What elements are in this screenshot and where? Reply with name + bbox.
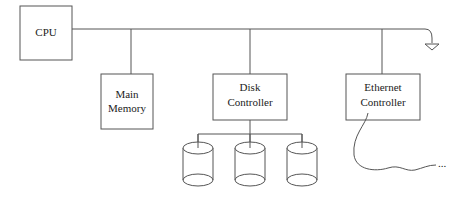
disk-controller-node: Disk Controller [213,74,287,120]
system-bus-line [72,29,432,43]
network-continuation-ellipsis: ... [438,157,447,169]
bus-terminator-icon [425,44,439,50]
ethernet-controller-label-line1: Ethernet [364,81,401,93]
disk-controller-label-line1: Disk [240,81,261,93]
ethernet-controller-node: Ethernet Controller [346,74,420,120]
disk-controller-label-line2: Controller [227,96,273,108]
main-memory-label-line1: Main [115,88,139,100]
system-bus-diagram: CPU Main Memory Disk Controller Ethernet… [0,0,461,199]
cpu-label: CPU [35,26,56,38]
disk-3 [287,142,317,186]
ethernet-controller-label-line2: Controller [360,96,406,108]
ethernet-cable [354,113,436,170]
main-memory-node: Main Memory [101,74,153,129]
cpu-node: CPU [20,6,72,60]
disk-2 [235,142,265,186]
main-memory-label-line2: Memory [108,102,146,114]
disk-1 [183,142,213,186]
